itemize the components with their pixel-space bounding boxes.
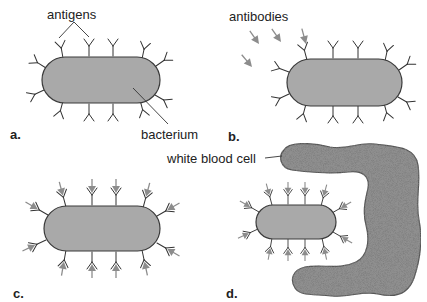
bacterium	[44, 206, 160, 251]
panel-d: white blood cell d.	[166, 144, 421, 301]
panel-a: antigens bacterium a.	[10, 7, 198, 142]
panel-c: c.	[13, 179, 182, 301]
panel-b: antibodies b.	[228, 9, 416, 144]
bacterium	[287, 59, 402, 106]
panel-c-label: c.	[13, 286, 24, 301]
antibodies-label: antibodies	[229, 9, 289, 24]
antigens-leader-lines	[59, 22, 89, 38]
panel-a-label: a.	[10, 127, 21, 142]
panel-b-label: b.	[228, 129, 240, 144]
bacterium	[42, 57, 160, 103]
white-blood-cell-leader-line	[265, 156, 282, 158]
bacterium-label: bacterium	[141, 127, 198, 142]
antigens-label: antigens	[47, 7, 97, 22]
white-blood-cell-label: white blood cell	[166, 151, 256, 166]
panel-d-label: d.	[226, 286, 238, 301]
bacterium	[256, 205, 336, 239]
antibody-diagram: antigens bacterium a. antibodies b.	[0, 0, 427, 302]
